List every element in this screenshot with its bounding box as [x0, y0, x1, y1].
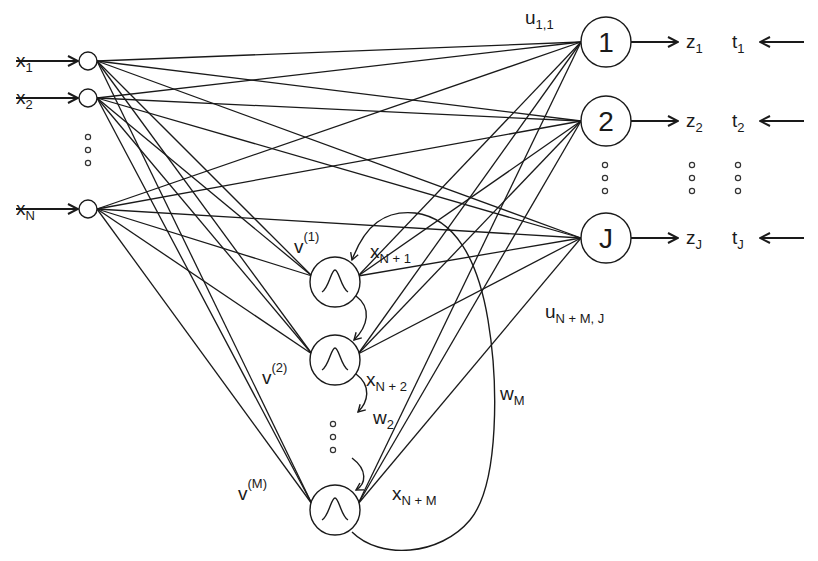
output-label-z-o2: z2	[686, 110, 703, 135]
input-unit-circle	[79, 200, 97, 218]
ellipsis-dot-icon	[602, 188, 607, 193]
state-label-h1: xN + 1	[370, 241, 411, 266]
ellipsis-dot-icon	[735, 162, 740, 167]
input-unit-circle	[79, 52, 97, 70]
edge-x2-h2	[97, 98, 312, 354]
output-layer: 1z1t12z2t2JzJtJ	[581, 17, 804, 263]
hidden-node-hM: v(M)xN + M	[238, 476, 437, 535]
edge-xN-hM	[97, 209, 312, 504]
ellipsis-dot-icon	[330, 421, 335, 426]
network-svg: x1x2xN v(1)xN + 1v(2)xN + 2v(M)xN + M 1z…	[0, 0, 818, 561]
input-node-xN: xN	[16, 198, 97, 223]
weight-label-v-h2: v(2)	[262, 360, 287, 388]
ellipsis-dot-icon	[735, 188, 740, 193]
edge-x1-h2	[97, 61, 312, 354]
target-label-t-o1: t1	[732, 31, 745, 56]
hidden-node-h2: v(2)xN + 2	[262, 335, 407, 394]
edge-hM-oJ	[358, 238, 581, 504]
output-label-z-oJ: zJ	[686, 227, 702, 252]
ellipsis-dots	[85, 134, 740, 452]
hidden-layer: v(1)xN + 1v(2)xN + 2v(M)xN + M	[238, 229, 437, 535]
output-unit-label: 1	[598, 27, 614, 58]
edge-h1-o1	[358, 42, 581, 276]
target-label-t-o2: t2	[732, 110, 745, 135]
output-node-oJ: JzJtJ	[581, 213, 804, 263]
rbf-unit-circle	[310, 335, 360, 385]
edge-hM-o1	[358, 42, 581, 504]
ellipsis-dot-icon	[689, 175, 694, 180]
weight-label-w2: w2	[372, 407, 394, 432]
edge-xN-h2	[97, 209, 312, 354]
edge-x2-hM	[97, 98, 312, 504]
edge-x1-o1	[97, 42, 581, 61]
edge-x2-h1	[97, 98, 312, 276]
rbf-unit-circle	[310, 485, 360, 535]
ellipsis-dot-icon	[602, 175, 607, 180]
edge-x1-h1	[97, 61, 312, 276]
weight-labels: u1,1 uN + M, J w2 wM	[372, 7, 604, 432]
output-node-o2: 2z2t2	[581, 96, 804, 146]
input-unit-circle	[79, 89, 97, 107]
weight-label-u11: u1,1	[525, 7, 554, 32]
input-label-x2: x2	[16, 87, 33, 112]
ellipsis-dot-icon	[330, 447, 335, 452]
ellipsis-dot-icon	[602, 162, 607, 167]
output-unit-label: J	[599, 223, 613, 254]
ellipsis-dot-icon	[85, 147, 90, 152]
state-label-hM: xN + M	[392, 483, 437, 508]
feedback-wM-in-arc	[352, 458, 364, 490]
weight-label-uNMJ: uN + M, J	[545, 301, 604, 326]
input-label-xN: xN	[16, 198, 35, 223]
state-label-h2: xN + 2	[366, 369, 407, 394]
input-node-x1: x1	[16, 50, 97, 75]
output-node-o1: 1z1t1	[581, 17, 804, 67]
ellipsis-dot-icon	[689, 162, 694, 167]
edge-xN-h1	[97, 209, 312, 276]
ellipsis-dot-icon	[85, 134, 90, 139]
edge-xN-oJ	[97, 209, 581, 238]
target-label-t-oJ: tJ	[732, 227, 744, 252]
weight-label-v-hM: v(M)	[238, 476, 267, 504]
rbf-unit-circle	[310, 257, 360, 307]
ellipsis-dot-icon	[689, 188, 694, 193]
weight-label-v-h1: v(1)	[294, 229, 319, 257]
feedback-w2-arc	[354, 296, 366, 340]
hidden-node-h1: v(1)xN + 1	[294, 229, 411, 307]
output-unit-label: 2	[598, 106, 614, 137]
ellipsis-dot-icon	[735, 175, 740, 180]
rbf-recurrent-network-diagram: x1x2xN v(1)xN + 1v(2)xN + 2v(M)xN + M 1z…	[0, 0, 818, 561]
input-node-x2: x2	[16, 87, 97, 112]
ellipsis-dot-icon	[85, 160, 90, 165]
output-label-z-o1: z1	[686, 31, 703, 56]
weight-label-wM: wM	[499, 383, 525, 408]
input-label-x1: x1	[16, 50, 33, 75]
ellipsis-dot-icon	[330, 434, 335, 439]
